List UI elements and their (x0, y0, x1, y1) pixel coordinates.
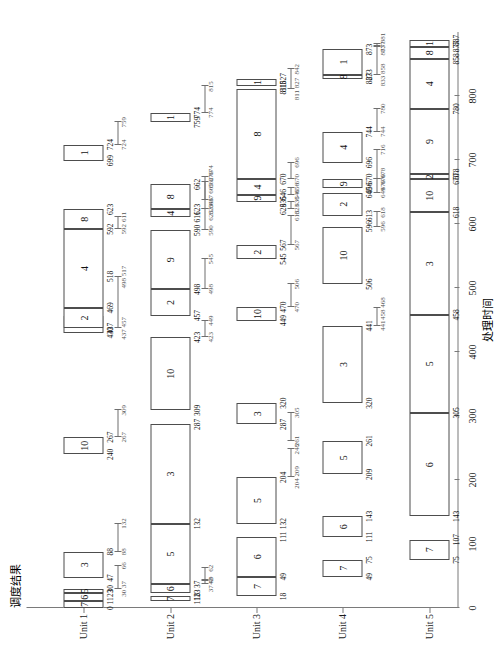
interval-label-right: 696 (292, 157, 300, 168)
interval-label-right: 498 517 (119, 266, 127, 289)
gantt-bar[interactable]: 1 (236, 79, 276, 87)
gantt-bar[interactable]: 3 (322, 326, 362, 403)
x-tick-label: 0 (466, 606, 477, 611)
gantt-bar-label: 6 (164, 586, 175, 591)
bar-edge-value: 209 (364, 469, 373, 480)
gantt-bar[interactable]: 2 (63, 308, 103, 328)
bar-edge-value: 88 (105, 548, 114, 556)
gantt-bar[interactable]: 4 (150, 209, 190, 217)
gantt-bar[interactable]: 9 (322, 179, 362, 188)
x-tick (454, 287, 459, 288)
gantt-bar[interactable]: 3 (63, 552, 103, 578)
gantt-bar[interactable]: 9 (236, 195, 276, 202)
gantt-bar[interactable]: 8 (150, 184, 190, 209)
interval-line (204, 321, 205, 338)
interval-label-left: 877 (378, 41, 386, 52)
gantt-bar[interactable]: 5 (409, 315, 449, 413)
gantt-bar[interactable]: 7 (322, 560, 362, 577)
gantt-bar[interactable]: 5 (236, 477, 276, 523)
x-tick-label: 300 (466, 409, 477, 424)
bar-edge-value: 596 (364, 221, 373, 232)
bar-edge-value: 592 (105, 224, 114, 235)
gantt-bar[interactable]: 8 (63, 209, 103, 229)
bar-edge-value: 240 (105, 449, 114, 460)
bar-edge-value: 37 (192, 581, 201, 589)
gantt-bar[interactable]: 9 (409, 109, 449, 174)
gantt-bar[interactable]: 10 (236, 307, 276, 320)
gantt-bar-label: 4 (251, 184, 262, 189)
gantt-bar[interactable]: 6 (150, 584, 190, 593)
gantt-bar[interactable]: 6 (236, 537, 276, 577)
bar-edge-value: 670 (364, 174, 373, 185)
gantt-bar-label: 5 (78, 589, 89, 594)
interval-line (117, 410, 118, 437)
gantt-bar[interactable]: 2 (150, 289, 190, 315)
gantt-bar[interactable]: 8 (409, 47, 449, 59)
gantt-bar[interactable]: 7 (63, 601, 103, 608)
gantt-bar[interactable]: 1 (409, 40, 449, 46)
gantt-bar[interactable]: 3 (150, 424, 190, 523)
bar-edge-value: 567 (278, 240, 287, 251)
gantt-bar-label: 4 (78, 266, 89, 271)
interval-label-left: 267 (119, 432, 127, 443)
gantt-bar-label: 8 (337, 74, 348, 79)
bar-edge-value: 873 (364, 44, 373, 55)
bar-edge-value: 204 (278, 472, 287, 483)
gantt-bar[interactable]: 6 (409, 413, 449, 517)
gantt-bar[interactable]: 4 (63, 229, 103, 308)
gantt-bar[interactable]: 10 (322, 227, 362, 285)
interval-line (290, 413, 291, 441)
gantt-bar-label: 5 (251, 498, 262, 503)
gantt-bar[interactable]: 2 (409, 174, 449, 179)
gantt-bar[interactable]: 2 (236, 245, 276, 259)
gantt-bar[interactable]: 6 (63, 593, 103, 601)
bar-edge-value: 662 (192, 179, 201, 190)
interval-line (290, 284, 291, 307)
bar-edge-value: 75 (364, 556, 373, 564)
bar-edge-value: 670 (278, 174, 287, 185)
gantt-bar[interactable]: 3 (236, 403, 276, 424)
gantt-bar[interactable]: 10 (63, 437, 103, 454)
gantt-bar[interactable]: 10 (150, 337, 190, 410)
gantt-bar[interactable]: 1 (150, 113, 190, 123)
bar-edge-value: 11 (105, 597, 114, 604)
bar-edge-value: 287 (278, 419, 287, 430)
gantt-bar[interactable]: 5 (322, 441, 362, 474)
gantt-bar[interactable]: 5 (63, 589, 103, 593)
gantt-bar-label: 3 (251, 411, 262, 416)
interval-label-left: 437 457 (119, 317, 127, 340)
gantt-bar[interactable]: 4 (409, 59, 449, 109)
x-tick (454, 159, 459, 160)
interval-line (117, 566, 118, 589)
gantt-bar[interactable]: 1 (322, 49, 362, 75)
gantt-bar-label: 7 (423, 547, 434, 552)
gantt-bar[interactable]: 6 (322, 517, 362, 537)
gantt-bar[interactable]: 2 (322, 193, 362, 216)
gantt-bar[interactable]: 10 (409, 179, 449, 212)
gantt-bar[interactable]: 7 (236, 577, 276, 597)
gantt-bar-label: 3 (337, 362, 348, 367)
gantt-bar[interactable]: 9 (150, 230, 190, 289)
interval-label-right: 305 (292, 408, 300, 419)
gantt-bar[interactable]: 7 (150, 597, 190, 601)
interval-label-right: 62 (206, 565, 214, 572)
gantt-bar[interactable]: 5 (150, 524, 190, 585)
bar-edge-value: 111 (278, 532, 287, 543)
y-tick-label-unit-5: Unit 5 (423, 614, 434, 658)
gantt-bar[interactable]: 4 (236, 179, 276, 194)
gantt-bar-label: 10 (251, 309, 262, 319)
gantt-bar[interactable]: 4 (322, 132, 362, 163)
gantt-bar[interactable]: 3 (409, 213, 449, 315)
gantt-chart-stage: 调度结果 处理时间 处理单元 0100200300400500600700800… (0, 0, 503, 666)
interval-label-left: 774 (206, 107, 214, 118)
gantt-bar[interactable]: 1 (63, 145, 103, 161)
gantt-bar[interactable]: 8 (236, 89, 276, 179)
bar-edge-value: 267 (105, 432, 114, 443)
gantt-bar-label: 2 (423, 174, 434, 179)
gantt-bar-label: 10 (423, 191, 434, 201)
gantt-bar-label: 10 (78, 441, 89, 451)
gantt-bar[interactable]: 8 (322, 75, 362, 79)
interval-label-left: 592 (119, 224, 127, 235)
gantt-bar[interactable]: 7 (409, 540, 449, 560)
interval-label-right: 618 (378, 207, 386, 218)
